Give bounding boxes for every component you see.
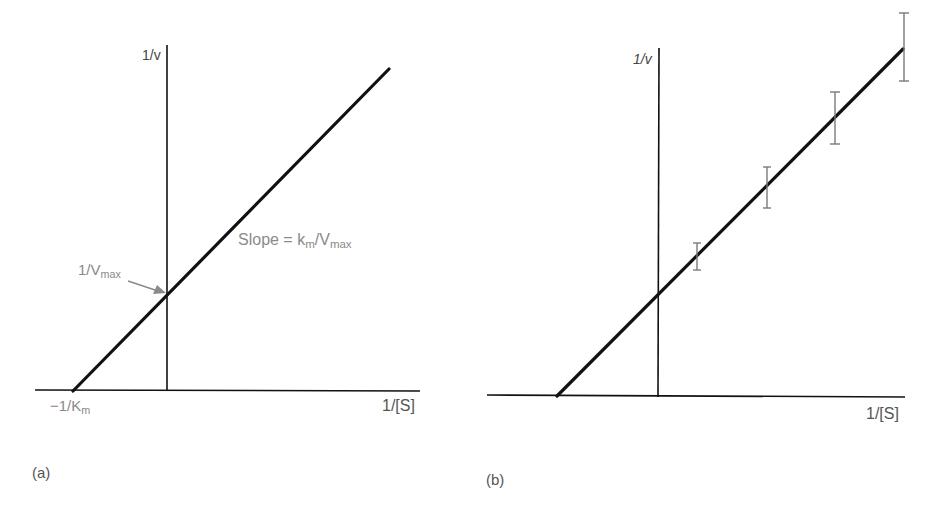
panel-b-x-axis-label: 1/[S] — [866, 406, 899, 422]
x-intercept-label: −1/Km — [50, 398, 90, 415]
panel-b — [487, 13, 909, 397]
panel-a-caption: (a) — [32, 465, 50, 480]
y-intercept-sub: max — [101, 268, 121, 280]
panel-a-y-axis-label: 1/v — [142, 48, 161, 62]
slope-prefix: Slope = k — [238, 231, 305, 248]
slope-v-sub: max — [330, 238, 352, 250]
y-intercept-text: 1/V — [78, 261, 101, 278]
x-intercept-sub: m — [81, 404, 90, 416]
x-intercept-text: −1/K — [50, 397, 81, 414]
error-bar — [830, 92, 840, 144]
panel-b-x-axis — [487, 395, 905, 397]
slope-k-sub: m — [305, 238, 315, 250]
error-bar — [899, 13, 909, 81]
panel-b-y-axis — [658, 48, 659, 397]
panel-b-y-axis-label: 1/v — [633, 52, 652, 66]
panel-a-intercept-arrow — [128, 281, 158, 291]
panel-a — [35, 45, 420, 391]
panel-a-x-axis-label: 1/[S] — [382, 398, 415, 414]
panel-b-caption: (b) — [486, 472, 504, 487]
slope-mid: /V — [315, 231, 330, 248]
panel-a-x-axis — [35, 390, 420, 391]
y-intercept-label: 1/Vmax — [78, 262, 121, 279]
panel-a-fit-line — [73, 69, 389, 391]
figure-canvas — [0, 0, 933, 524]
slope-annotation: Slope = km/Vmax — [238, 232, 352, 250]
panel-b-fit-line — [557, 49, 903, 396]
